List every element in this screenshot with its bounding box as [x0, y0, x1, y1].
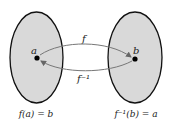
forward-arrow-label: f	[81, 33, 88, 44]
codomain-caption: f⁻¹(b) = a	[113, 109, 157, 119]
function-inverse-diagram: a b f f⁻¹ f(a) = b f⁻¹(b) = a	[0, 0, 171, 127]
point-b	[132, 56, 137, 61]
point-a-label: a	[31, 45, 37, 56]
inverse-arrow-label: f⁻¹	[76, 73, 90, 84]
point-b-label: b	[133, 45, 139, 56]
point-a	[34, 55, 39, 60]
domain-caption: f(a) = b	[18, 109, 54, 119]
